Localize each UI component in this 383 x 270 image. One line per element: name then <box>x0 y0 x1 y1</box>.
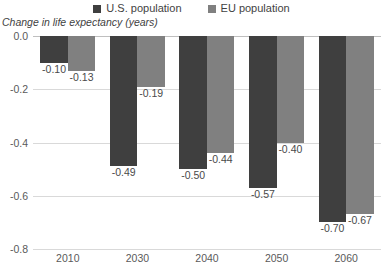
x-axis-ticks: 20102030204020502060 <box>33 252 381 268</box>
bar-us-2040[interactable] <box>179 36 207 169</box>
bar-slot: -0.44 <box>207 36 235 249</box>
x-axis-tick-2030: 2030 <box>103 252 173 268</box>
bar-us-2010[interactable] <box>40 36 68 63</box>
bar-slot: -0.70 <box>319 36 347 249</box>
bar-value-label: -0.10 <box>42 64 66 75</box>
bar-value-label: -0.70 <box>320 223 344 234</box>
gridline <box>33 249 381 250</box>
plot-area: 0.0-0.2-0.4-0.6-0.8 -0.10-0.13-0.49-0.19… <box>33 36 381 249</box>
bar-eu-2060[interactable] <box>346 36 374 214</box>
bar-value-label: -0.13 <box>70 72 94 83</box>
bar-us-2060[interactable] <box>319 36 347 222</box>
legend-label-eu: EU population <box>221 3 290 14</box>
y-axis-tick-label: -0.8 <box>0 243 28 255</box>
bar-slot: -0.50 <box>179 36 207 249</box>
y-axis-tick-label: 0.0 <box>0 30 28 42</box>
bar-eu-2050[interactable] <box>277 36 305 143</box>
x-axis-tick-2010: 2010 <box>33 252 103 268</box>
bar-slot: -0.10 <box>40 36 68 249</box>
bars: -0.10-0.13 <box>33 36 103 249</box>
bar-eu-2010[interactable] <box>68 36 96 71</box>
bar-us-2050[interactable] <box>249 36 277 188</box>
bar-slot: -0.49 <box>110 36 138 249</box>
y-axis-title: Change in life expectancy (years) <box>2 16 158 28</box>
legend-item-eu-population: EU population <box>208 3 290 14</box>
bar-eu-2030[interactable] <box>137 36 165 87</box>
bar-slot: -0.19 <box>137 36 165 249</box>
bar-group-2050: -0.57-0.40 <box>242 36 312 249</box>
bar-slot: -0.67 <box>346 36 374 249</box>
bar-slot: -0.57 <box>249 36 277 249</box>
bar-value-label: -0.44 <box>209 154 233 165</box>
bar-group-2040: -0.50-0.44 <box>172 36 242 249</box>
bar-value-label: -0.19 <box>139 88 163 99</box>
bar-eu-2040[interactable] <box>207 36 235 153</box>
bar-value-label: -0.57 <box>251 189 275 200</box>
y-axis-tick-label: -0.2 <box>0 83 28 95</box>
bars: -0.70-0.67 <box>311 36 381 249</box>
bar-group-2010: -0.10-0.13 <box>33 36 103 249</box>
bar-value-label: -0.67 <box>348 215 372 226</box>
y-axis-tick-label: -0.4 <box>0 137 28 149</box>
legend-item-us-population: U.S. population <box>93 3 181 14</box>
legend-swatch-eu-icon <box>208 5 216 13</box>
bars: -0.50-0.44 <box>172 36 242 249</box>
legend-swatch-us-icon <box>93 5 101 13</box>
bar-value-label: -0.40 <box>278 144 302 155</box>
chart-legend: U.S. population EU population <box>0 1 383 16</box>
x-axis-tick-2050: 2050 <box>242 252 312 268</box>
x-axis-tick-2040: 2040 <box>172 252 242 268</box>
x-axis-tick-2060: 2060 <box>311 252 381 268</box>
bars: -0.57-0.40 <box>242 36 312 249</box>
bar-slot: -0.40 <box>277 36 305 249</box>
bars: -0.49-0.19 <box>103 36 173 249</box>
y-axis-tick-label: -0.6 <box>0 190 28 202</box>
bar-group-2060: -0.70-0.67 <box>311 36 381 249</box>
bar-value-label: -0.49 <box>112 167 136 178</box>
bar-us-2030[interactable] <box>110 36 138 166</box>
legend-label-us: U.S. population <box>106 3 181 14</box>
bar-value-label: -0.50 <box>181 170 205 181</box>
bar-slot: -0.13 <box>68 36 96 249</box>
bar-group-2030: -0.49-0.19 <box>103 36 173 249</box>
